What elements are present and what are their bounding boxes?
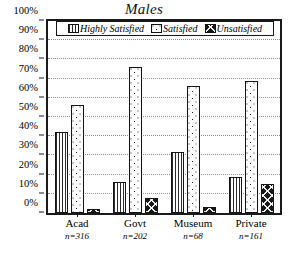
- x-axis: Acadn=316Govtn=202Museumn=68Privaten=161: [46, 217, 282, 251]
- y-axis-tick-mark: [39, 192, 44, 193]
- x-axis-group-label: Privaten=161: [235, 217, 266, 242]
- x-axis-sample-size: n=202: [123, 230, 147, 242]
- y-axis-tick-mark: [39, 116, 44, 117]
- bar: [261, 184, 274, 213]
- y-axis-tick-mark: [39, 212, 44, 213]
- bar: [187, 86, 200, 213]
- x-axis-group-label: Museumn=68: [174, 217, 213, 242]
- bar: [113, 182, 126, 213]
- bar-group: [106, 21, 164, 213]
- bar: [71, 105, 84, 213]
- y-axis-tick-label: 10%: [19, 177, 38, 188]
- bar: [171, 152, 184, 213]
- y-axis-tick-mark: [39, 96, 44, 97]
- y-axis-tick-mark: [39, 135, 44, 136]
- legend-swatch: [205, 24, 216, 33]
- x-axis-category-name: Museum: [174, 217, 213, 230]
- bar: [203, 207, 216, 213]
- chart-legend: Highly SatisfiedSatisfiedUnsatisfied: [56, 21, 274, 36]
- bar-group: [48, 21, 106, 213]
- x-axis-tick-mark: [251, 213, 252, 217]
- plot-area: [46, 19, 282, 215]
- x-axis-tick-mark: [77, 213, 78, 217]
- y-axis-tick-mark: [39, 77, 44, 78]
- y-axis-tick-label: 0%: [24, 197, 38, 208]
- x-axis-sample-size: n=68: [174, 230, 213, 242]
- y-axis-tick-label: 20%: [19, 158, 38, 169]
- bar: [87, 209, 100, 213]
- y-axis-tick-mark: [39, 58, 44, 59]
- x-axis-sample-size: n=316: [65, 230, 89, 242]
- y-axis-tick-label: 100%: [14, 5, 39, 16]
- x-axis-sample-size: n=161: [235, 230, 266, 242]
- y-axis-tick-label: 90%: [19, 24, 38, 35]
- bar: [55, 132, 68, 213]
- x-axis-group-label: Govtn=202: [123, 217, 147, 242]
- x-axis-group-label: Acadn=316: [65, 217, 89, 242]
- y-axis-tick-label: 50%: [19, 101, 38, 112]
- x-axis-tick-mark: [135, 213, 136, 217]
- x-axis-category-name: Govt: [123, 217, 147, 230]
- bar: [229, 177, 242, 213]
- legend-swatch: [151, 24, 162, 33]
- y-axis: 0%10%20%30%40%50%60%70%80%90%100%: [0, 19, 44, 215]
- y-axis-tick-label: 30%: [19, 139, 38, 150]
- y-axis-tick-label: 80%: [19, 43, 38, 54]
- y-axis-tick-mark: [39, 154, 44, 155]
- chart-title: Males: [0, 1, 288, 18]
- legend-label: Highly Satisfied: [80, 24, 144, 34]
- y-axis-tick-label: 60%: [19, 81, 38, 92]
- plot-inner: [48, 21, 280, 213]
- y-axis-tick-mark: [39, 173, 44, 174]
- legend-entry: Satisfied: [151, 24, 197, 34]
- legend-entry: Unsatisfied: [205, 24, 263, 34]
- legend-label: Unsatisfied: [217, 24, 263, 34]
- legend-entry: Highly Satisfied: [68, 24, 144, 34]
- x-axis-category-name: Private: [235, 217, 266, 230]
- bar: [129, 67, 142, 213]
- bar: [145, 198, 158, 213]
- y-axis-tick-mark: [39, 20, 44, 21]
- x-axis-tick-mark: [193, 213, 194, 217]
- x-axis-category-name: Acad: [65, 217, 89, 230]
- y-axis-tick-label: 70%: [19, 62, 38, 73]
- y-axis-tick-mark: [39, 39, 44, 40]
- bar-group: [222, 21, 280, 213]
- y-axis-tick-label: 40%: [19, 120, 38, 131]
- legend-swatch: [68, 24, 79, 33]
- legend-label: Satisfied: [163, 24, 197, 34]
- bar-group: [164, 21, 222, 213]
- bar: [245, 81, 258, 213]
